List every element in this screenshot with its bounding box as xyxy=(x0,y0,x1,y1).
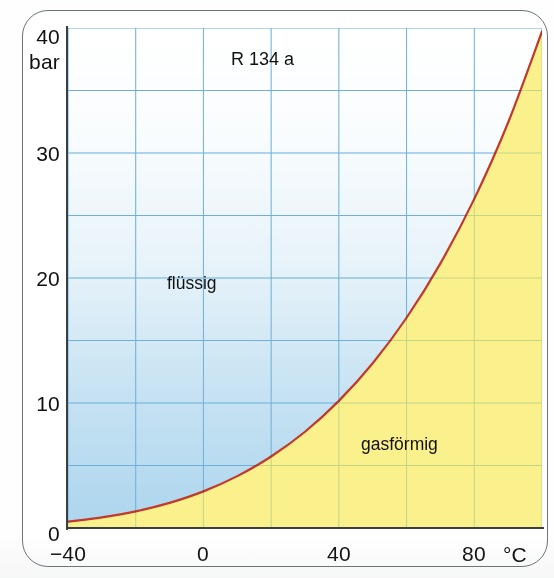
plot-area xyxy=(68,28,542,528)
y-axis-tick-30: 30 xyxy=(16,143,60,164)
y-axis-tick-40: 40 xyxy=(16,26,60,47)
x-axis-line xyxy=(66,527,544,529)
y-axis-tick-0: 0 xyxy=(16,523,60,544)
y-axis-tick-20: 20 xyxy=(16,268,60,289)
gas-region-label: gasförmig xyxy=(361,434,438,455)
y-axis-unit-label: bar xyxy=(16,51,60,72)
liquid-region-label: flüssig xyxy=(167,273,217,294)
x-axis-tick-40: 40 xyxy=(307,543,371,564)
refrigerant-title: R 134 a xyxy=(231,49,294,70)
x-axis-unit-label: °C xyxy=(492,544,538,565)
chart-figure: 40 bar 30 20 10 0 −40 0 40 80 °C R 134 a… xyxy=(0,0,554,578)
x-axis-tick-0: 0 xyxy=(171,543,235,564)
x-axis-tick-minus40: −40 xyxy=(36,543,100,564)
gridlines-overlay xyxy=(68,28,542,528)
y-axis-tick-10: 10 xyxy=(16,393,60,414)
y-axis-line xyxy=(66,26,68,530)
